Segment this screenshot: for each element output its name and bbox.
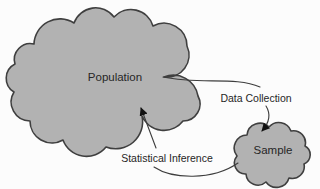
diagram-canvas: Population Sample Data Collection Statis… [0,0,320,189]
statistical-inference-label: Statistical Inference [121,152,213,164]
population-sample-diagram: Population Sample Data Collection Statis… [0,0,320,189]
data-collection-label: Data Collection [220,92,291,104]
population-label: Population [88,71,142,83]
sample-label: Sample [254,144,293,156]
